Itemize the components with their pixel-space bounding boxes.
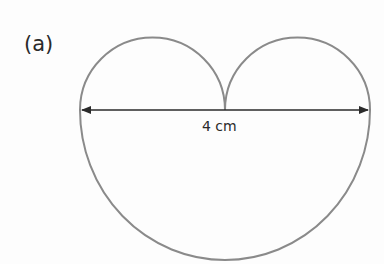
shape-outline xyxy=(80,38,370,261)
compound-shape-diagram xyxy=(0,0,384,264)
part-label: (a) xyxy=(24,32,53,56)
figure-canvas: (a) 4 cm xyxy=(0,0,384,264)
dimension-label: 4 cm xyxy=(202,118,237,134)
